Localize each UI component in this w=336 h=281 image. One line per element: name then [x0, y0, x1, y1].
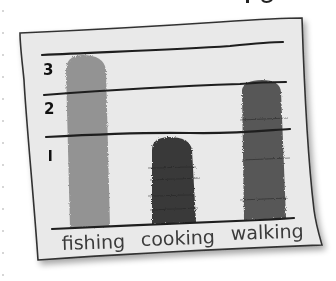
bar-chart: 3 2 1 fishing cooking walking — [0, 0, 336, 281]
ytick-3: 3 — [43, 61, 53, 79]
category-label-fishing: fishing — [61, 230, 125, 254]
bar-cooking — [152, 137, 196, 224]
clipped-header-fragment — [246, 0, 272, 3]
bar-fishing — [66, 55, 110, 228]
ytick-1-mark — [49, 150, 52, 161]
ytick-2: 2 — [44, 100, 54, 118]
category-label-cooking: cooking — [140, 225, 215, 250]
category-label-walking: walking — [230, 219, 304, 244]
